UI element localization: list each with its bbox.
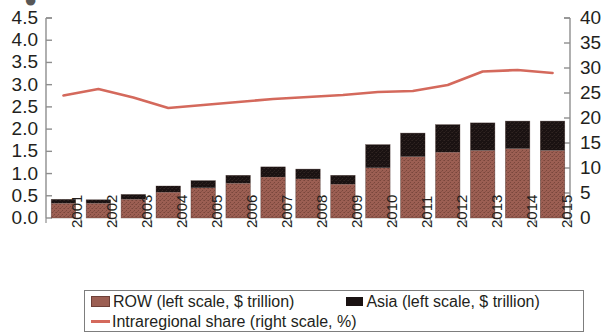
x-axis-tick-label: 2006 — [244, 195, 259, 228]
chart-legend: ROW (left scale, $ trillion) Asia (left … — [84, 290, 584, 332]
x-axis-tick-label: 2009 — [349, 195, 364, 228]
x-axis-tick-label: 2011 — [419, 196, 434, 228]
x-axis-tick-label: 2008 — [314, 195, 329, 228]
x-axis-tick-label: 2007 — [279, 195, 294, 228]
legend-item-intraregional-share: Intraregional share (right scale, %) — [91, 313, 357, 330]
x-axis-tick-label: 2005 — [209, 195, 224, 228]
x-axis-labels: 2001200220032004200520062007200820092010… — [0, 0, 610, 290]
row-swatch-icon — [91, 296, 110, 307]
x-axis-tick-label: 2010 — [384, 195, 399, 228]
x-axis-tick-label: 2001 — [69, 195, 84, 228]
legend-label-intraregional-share: Intraregional share (right scale, %) — [112, 313, 357, 330]
x-axis-tick-label: 2013 — [489, 195, 504, 228]
x-axis-tick-label: 2015 — [559, 195, 574, 228]
x-axis-tick-label: 2003 — [139, 195, 154, 228]
chart-figure: ● 4.54.03.53.02.52.01.51.00.50.0 4035302… — [0, 0, 610, 334]
x-axis-tick-label: 2004 — [174, 195, 189, 228]
x-axis-tick-label: 2014 — [524, 195, 539, 228]
legend-label-asia: Asia (left scale, $ trillion) — [366, 293, 539, 310]
asia-swatch-icon — [346, 297, 363, 306]
x-axis-tick-label: 2012 — [454, 195, 469, 228]
legend-item-asia: Asia (left scale, $ trillion) — [346, 293, 539, 310]
legend-label-row: ROW (left scale, $ trillion) — [113, 293, 294, 310]
line-swatch-icon — [91, 320, 110, 323]
legend-item-row: ROW (left scale, $ trillion) — [91, 293, 294, 310]
x-axis-tick-label: 2002 — [104, 195, 119, 228]
